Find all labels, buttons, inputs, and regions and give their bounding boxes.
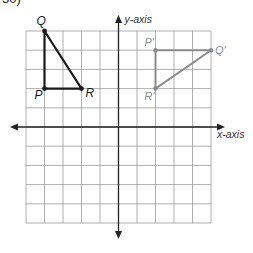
vertex-r-point	[79, 86, 84, 91]
y-axis-down-arrow-icon	[115, 231, 122, 239]
vertex-label-q-prime: Q'	[215, 44, 227, 56]
x-axis-label: x-axis	[216, 128, 245, 140]
vertex-label-p: P	[35, 88, 43, 102]
problem-number: 30)	[2, 0, 21, 6]
coordinate-plane-figure: 30) y-axisx-axisQPRP'Q'R'	[0, 0, 253, 253]
vertex-label-r-prime: R'	[145, 90, 156, 102]
vertex-q-point	[42, 29, 47, 34]
vertex-label-p-prime: P'	[145, 36, 155, 48]
vertex-p-point	[42, 86, 47, 91]
coordinate-grid: y-axisx-axisQPRP'Q'R'	[0, 0, 253, 253]
vertex-q-prime-point	[209, 48, 214, 53]
vertex-p-prime-point	[153, 48, 158, 53]
y-axis-up-arrow-icon	[115, 15, 122, 23]
vertex-label-q: Q	[37, 14, 46, 28]
y-axis-label: y-axis	[124, 13, 153, 25]
vertex-label-r: R	[86, 86, 95, 100]
x-axis-left-arrow-icon	[10, 124, 18, 131]
